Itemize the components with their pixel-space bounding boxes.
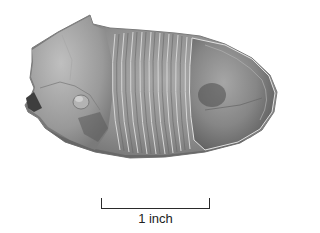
pygidium <box>189 38 275 150</box>
scale-bar <box>101 197 210 209</box>
scale-bar-label: 1 inch <box>101 211 210 226</box>
cephalon <box>26 16 112 150</box>
scale-bar-line <box>101 208 210 209</box>
scale-bar-right-tick <box>209 198 210 209</box>
scale-bar-left-tick <box>101 198 102 209</box>
